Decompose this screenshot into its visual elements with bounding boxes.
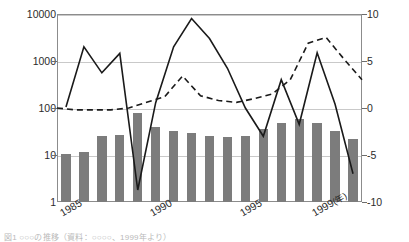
tickmark-right-5 xyxy=(362,61,367,62)
ytick-left-1000: 1000 xyxy=(0,56,56,66)
line-series-layer xyxy=(57,14,362,202)
ytick-right-m5: -5 xyxy=(367,150,407,160)
ytick-right-m10: -10 xyxy=(367,197,407,207)
ytick-left-10: 10 xyxy=(0,150,56,160)
dashed-line-series xyxy=(57,38,362,110)
tickmark-right-m10 xyxy=(362,202,367,203)
ytick-right-0: 0 xyxy=(367,103,407,113)
tickmark-right-m5 xyxy=(362,155,367,156)
tickmark-right-0 xyxy=(362,108,367,109)
tickmark-left-1000 xyxy=(52,61,57,62)
tickmark-left-10 xyxy=(52,155,57,156)
figure-caption: 図1 ○○○の推移（資料：○○○○、1999年より） xyxy=(4,231,172,242)
ytick-left-100: 100 xyxy=(0,103,56,113)
solid-line-series xyxy=(66,19,353,190)
tickmark-right-10 xyxy=(362,14,367,15)
ytick-left-1: 1 xyxy=(0,197,56,207)
ytick-right-5: 5 xyxy=(367,56,407,66)
ytick-right-10: 10 xyxy=(367,9,407,19)
ytick-left-10000: 10000 xyxy=(0,9,56,19)
tickmark-left-100 xyxy=(52,108,57,109)
